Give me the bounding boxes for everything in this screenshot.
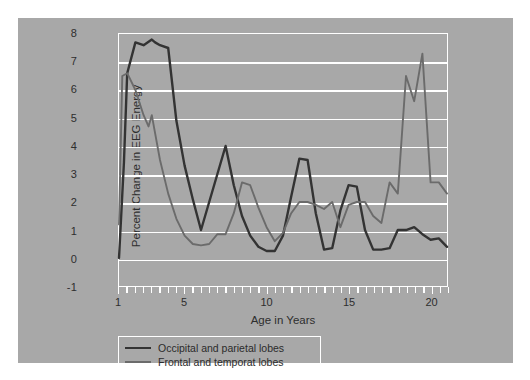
x-tick-minor xyxy=(283,287,284,293)
legend-swatch-frontal xyxy=(125,361,151,363)
x-tick-minor xyxy=(275,287,276,293)
legend-label-frontal: Frontal and temporat lobes xyxy=(158,356,284,368)
series-line xyxy=(119,40,447,258)
y-tick-label: 7 xyxy=(57,55,77,67)
x-tick-minor xyxy=(399,287,400,293)
x-tick-major xyxy=(432,287,433,294)
plot-area xyxy=(118,33,448,287)
x-tick-minor xyxy=(448,287,449,293)
x-tick-minor xyxy=(250,287,251,293)
x-tick-minor xyxy=(366,287,367,293)
x-tick-label: 1 xyxy=(115,296,121,308)
x-axis-label: Age in Years xyxy=(118,314,448,326)
legend-item: Frontal and temporat lobes xyxy=(125,355,314,368)
x-tick-minor xyxy=(135,287,136,293)
x-tick-minor xyxy=(415,287,416,293)
x-tick-minor xyxy=(151,287,152,293)
x-tick-minor xyxy=(192,287,193,293)
figure-panel: Percent Change in EEG Energy Age in Year… xyxy=(18,18,513,363)
y-tick-label: -1 xyxy=(57,281,77,293)
y-tick-label: 3 xyxy=(57,168,77,180)
x-tick-minor xyxy=(324,287,325,293)
x-tick-minor xyxy=(440,287,441,293)
x-tick-minor xyxy=(258,287,259,293)
chart-legend: Occipital and parietal lobes Frontal and… xyxy=(118,336,321,372)
y-tick-label: 6 xyxy=(57,83,77,95)
x-tick-minor xyxy=(374,287,375,293)
x-tick-major xyxy=(267,287,268,294)
x-tick-major xyxy=(184,287,185,294)
series-lines xyxy=(119,34,447,286)
x-tick-minor xyxy=(382,287,383,293)
x-tick-label: 15 xyxy=(343,296,355,308)
y-tick-label: 5 xyxy=(57,112,77,124)
x-tick-minor xyxy=(176,287,177,293)
x-tick-minor xyxy=(242,287,243,293)
x-tick-major xyxy=(349,287,350,294)
x-tick-minor xyxy=(333,287,334,293)
legend-label-occipital: Occipital and parietal lobes xyxy=(158,342,284,354)
x-tick-major xyxy=(118,287,119,294)
series-line xyxy=(119,54,447,246)
y-tick-label: 0 xyxy=(57,253,77,265)
x-tick-minor xyxy=(225,287,226,293)
x-tick-label: 20 xyxy=(425,296,437,308)
x-tick-minor xyxy=(308,287,309,293)
x-tick-minor xyxy=(291,287,292,293)
legend-item: Occipital and parietal lobes xyxy=(125,341,314,354)
legend-swatch-occipital xyxy=(125,347,151,349)
x-tick-label: 10 xyxy=(260,296,272,308)
x-tick-minor xyxy=(390,287,391,293)
x-tick-minor xyxy=(217,287,218,293)
x-axis-ticks xyxy=(118,287,448,294)
x-tick-minor xyxy=(201,287,202,293)
x-tick-minor xyxy=(407,287,408,293)
x-tick-minor xyxy=(234,287,235,293)
y-tick-label: 4 xyxy=(57,140,77,152)
x-tick-minor xyxy=(300,287,301,293)
x-tick-minor xyxy=(126,287,127,293)
x-tick-minor xyxy=(209,287,210,293)
y-tick-label: 1 xyxy=(57,225,77,237)
x-tick-minor xyxy=(159,287,160,293)
x-tick-minor xyxy=(316,287,317,293)
x-tick-label: 5 xyxy=(181,296,187,308)
y-tick-label: 8 xyxy=(57,27,77,39)
x-tick-minor xyxy=(143,287,144,293)
x-tick-minor xyxy=(423,287,424,293)
x-tick-minor xyxy=(341,287,342,293)
x-tick-minor xyxy=(168,287,169,293)
y-tick-label: 2 xyxy=(57,196,77,208)
x-tick-minor xyxy=(357,287,358,293)
